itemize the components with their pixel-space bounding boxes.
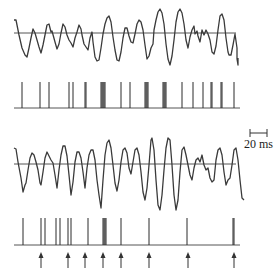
scale-bar (250, 129, 267, 137)
panel-a-stimulus-trace (14, 9, 238, 65)
arrow-up-icon (186, 252, 191, 268)
arrow-up-icon (232, 252, 237, 268)
arrow-up-icon (119, 252, 124, 268)
panel-a-spike-raster (22, 82, 234, 108)
panel-b-stimulus-trace (14, 138, 244, 210)
arrow-up-icon (101, 252, 106, 268)
arrow-up-icon (147, 252, 152, 268)
panel-b-event-arrows (39, 252, 237, 268)
arrow-up-icon (66, 252, 71, 268)
figure-canvas (0, 0, 279, 277)
scale-bar-label: 20 ms (244, 137, 273, 152)
arrow-up-icon (83, 252, 88, 268)
arrow-up-icon (39, 252, 44, 268)
panel-b-spike-raster (23, 218, 234, 245)
